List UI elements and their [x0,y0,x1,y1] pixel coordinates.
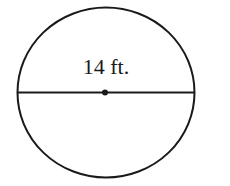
diameter-label: 14 ft. [83,54,129,79]
center-point [102,90,108,96]
circle-diagram: 14 ft. [0,0,230,186]
